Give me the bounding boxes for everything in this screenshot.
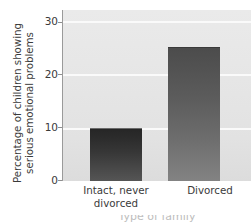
y-axis-title: Percentage of children showing serious e… (6, 8, 40, 198)
y-axis-title-line-1: Percentage of children showing (11, 23, 23, 183)
plot-area (63, 10, 251, 181)
x-axis-title: Type of family (63, 215, 251, 222)
gridline-30 (63, 21, 251, 23)
y-tick-label-30: 30 (36, 16, 58, 27)
y-axis-tick-labels: 30 20 10 0 (36, 0, 58, 222)
x-tick-label-line-2: divorced (63, 197, 169, 210)
x-axis-tick-labels: Intact, never divorced Divorced (63, 184, 251, 214)
x-tick-label-intact-never-divorced: Intact, never divorced (63, 184, 169, 209)
x-axis-title-clip: Type of family (63, 215, 251, 222)
bar-intact-never-divorced[interactable] (90, 128, 142, 181)
x-tick-label-line-1: Intact, never (63, 184, 169, 197)
gridline-20 (63, 74, 251, 76)
bar-chart: Percentage of children showing serious e… (0, 0, 251, 222)
bar-divorced[interactable] (168, 47, 220, 181)
y-axis-title-line-2: serious emotional problems (23, 32, 35, 174)
x-tick-label-divorced: Divorced (169, 184, 251, 197)
y-tick-label-0: 0 (36, 175, 58, 186)
y-tick-label-10: 10 (36, 122, 58, 133)
x-tick-label-line-1: Divorced (169, 184, 251, 197)
y-tick-label-20: 20 (36, 69, 58, 80)
